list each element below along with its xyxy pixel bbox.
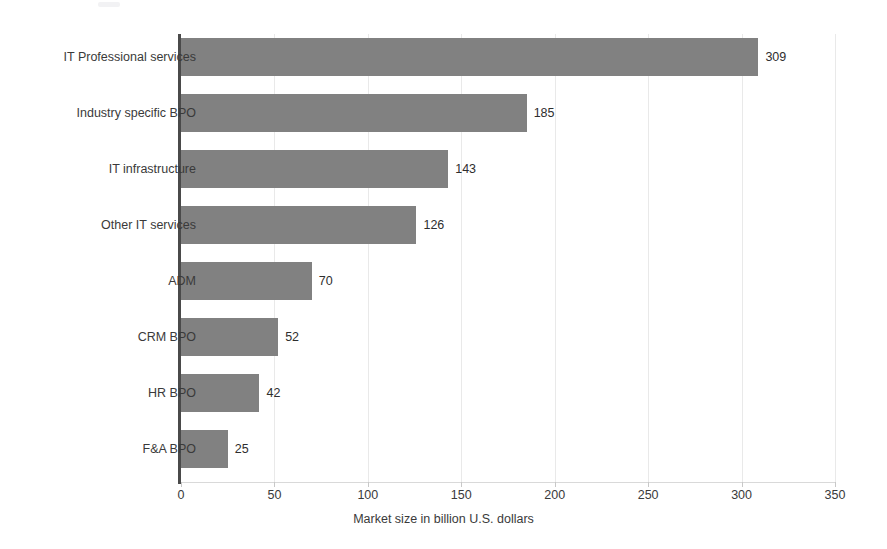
x-axis-tick-mark [742, 482, 743, 487]
bar[interactable] [181, 38, 758, 76]
bar-value-label: 185 [534, 107, 555, 120]
bar-row: 309 [181, 38, 835, 94]
category-label: HR BPO [0, 387, 196, 400]
x-axis-tick-label: 350 [825, 489, 846, 502]
x-axis-title: Market size in billion U.S. dollars [0, 513, 887, 526]
x-axis-tick-mark [835, 482, 836, 487]
bar[interactable] [181, 150, 448, 188]
x-axis-tick-mark [648, 482, 649, 487]
x-axis-tick-mark [555, 482, 556, 487]
plot-area: 30918514312670524225 [181, 34, 835, 482]
bar-value-label: 126 [423, 219, 444, 232]
category-label: IT infrastructure [0, 163, 196, 176]
bar-value-label: 42 [266, 387, 280, 400]
category-label: Industry specific BPO [0, 107, 196, 120]
x-axis-tick-mark [181, 482, 182, 487]
bar-row: 42 [181, 374, 835, 430]
x-axis-tick-label: 150 [451, 489, 472, 502]
bar-row: 143 [181, 150, 835, 206]
x-axis-tick-label: 50 [267, 489, 281, 502]
x-axis-tick-mark [368, 482, 369, 487]
category-label: CRM BPO [0, 331, 196, 344]
x-axis-tick-mark [274, 482, 275, 487]
bar-value-label: 309 [765, 51, 786, 64]
x-axis-tick-mark [461, 482, 462, 487]
category-label: Other IT services [0, 219, 196, 232]
gridline [835, 34, 836, 482]
bar-row: 70 [181, 262, 835, 318]
bar-chart: 30918514312670524225 IT Professional ser… [0, 0, 887, 549]
bar-value-label: 70 [319, 275, 333, 288]
bar-row: 185 [181, 94, 835, 150]
bar-row: 25 [181, 430, 835, 486]
bar-value-label: 143 [455, 163, 476, 176]
bar-row: 126 [181, 206, 835, 262]
x-axis-tick-label: 250 [638, 489, 659, 502]
x-axis-tick-label: 200 [544, 489, 565, 502]
category-label: ADM [0, 275, 196, 288]
bar-row: 52 [181, 318, 835, 374]
bar[interactable] [181, 94, 527, 132]
bar[interactable] [181, 206, 416, 244]
scan-artifact [98, 2, 120, 7]
bar[interactable] [181, 262, 312, 300]
category-label: IT Professional services [0, 51, 196, 64]
x-axis-tick-label: 0 [178, 489, 185, 502]
bar-value-label: 25 [235, 443, 249, 456]
x-axis-tick-label: 100 [357, 489, 378, 502]
bar-value-label: 52 [285, 331, 299, 344]
category-label: F&A BPO [0, 443, 196, 456]
x-axis-tick-label: 300 [731, 489, 752, 502]
